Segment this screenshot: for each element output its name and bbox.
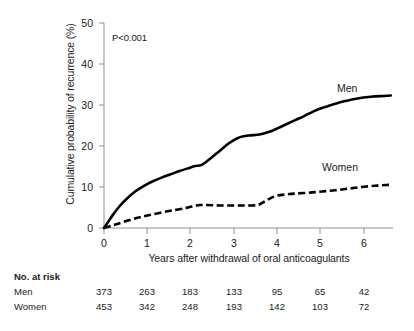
risk-value: 72 xyxy=(351,301,377,312)
x-tick-label: 1 xyxy=(135,237,159,249)
risk-value: 342 xyxy=(134,301,160,312)
chart-axes xyxy=(99,23,393,234)
x-tick-label: 3 xyxy=(222,237,246,249)
p-value-annotation: P<0.001 xyxy=(112,32,147,43)
y-tick-label: 0 xyxy=(71,222,93,234)
x-tick-label: 5 xyxy=(308,237,332,249)
risk-value: 373 xyxy=(91,286,117,297)
kaplan-meier-figure: Cumulative probability of recurrence (%)… xyxy=(0,0,414,331)
risk-value: 263 xyxy=(134,286,160,297)
y-tick-label: 30 xyxy=(71,99,93,111)
risk-value: 193 xyxy=(221,301,247,312)
y-tick-label: 50 xyxy=(71,17,93,29)
series-label-men: Men xyxy=(337,82,357,94)
risk-value: 248 xyxy=(177,301,203,312)
risk-value: 103 xyxy=(307,301,333,312)
y-tick-label: 40 xyxy=(71,58,93,70)
y-tick-label: 10 xyxy=(71,181,93,193)
risk-value: 453 xyxy=(91,301,117,312)
y-tick-label: 20 xyxy=(71,140,93,152)
x-tick-label: 4 xyxy=(265,237,289,249)
x-axis-ticks xyxy=(104,228,364,234)
risk-value: 142 xyxy=(264,301,290,312)
series-line-women xyxy=(104,185,391,228)
risk-table-title: No. at risk xyxy=(14,271,60,282)
risk-value: 133 xyxy=(221,286,247,297)
x-tick-label: 0 xyxy=(92,237,116,249)
x-axis-title: Years after withdrawal of oral anticoagu… xyxy=(104,252,394,264)
risk-value: 183 xyxy=(177,286,203,297)
risk-row-label-men: Men xyxy=(14,286,32,297)
x-tick-label: 6 xyxy=(352,237,376,249)
x-tick-label: 2 xyxy=(178,237,202,249)
risk-value: 42 xyxy=(351,286,377,297)
risk-value: 65 xyxy=(307,286,333,297)
series-label-women: Women xyxy=(322,161,358,173)
y-axis-ticks xyxy=(99,23,104,228)
risk-row-label-women: Women xyxy=(14,301,47,312)
risk-value: 95 xyxy=(264,286,290,297)
